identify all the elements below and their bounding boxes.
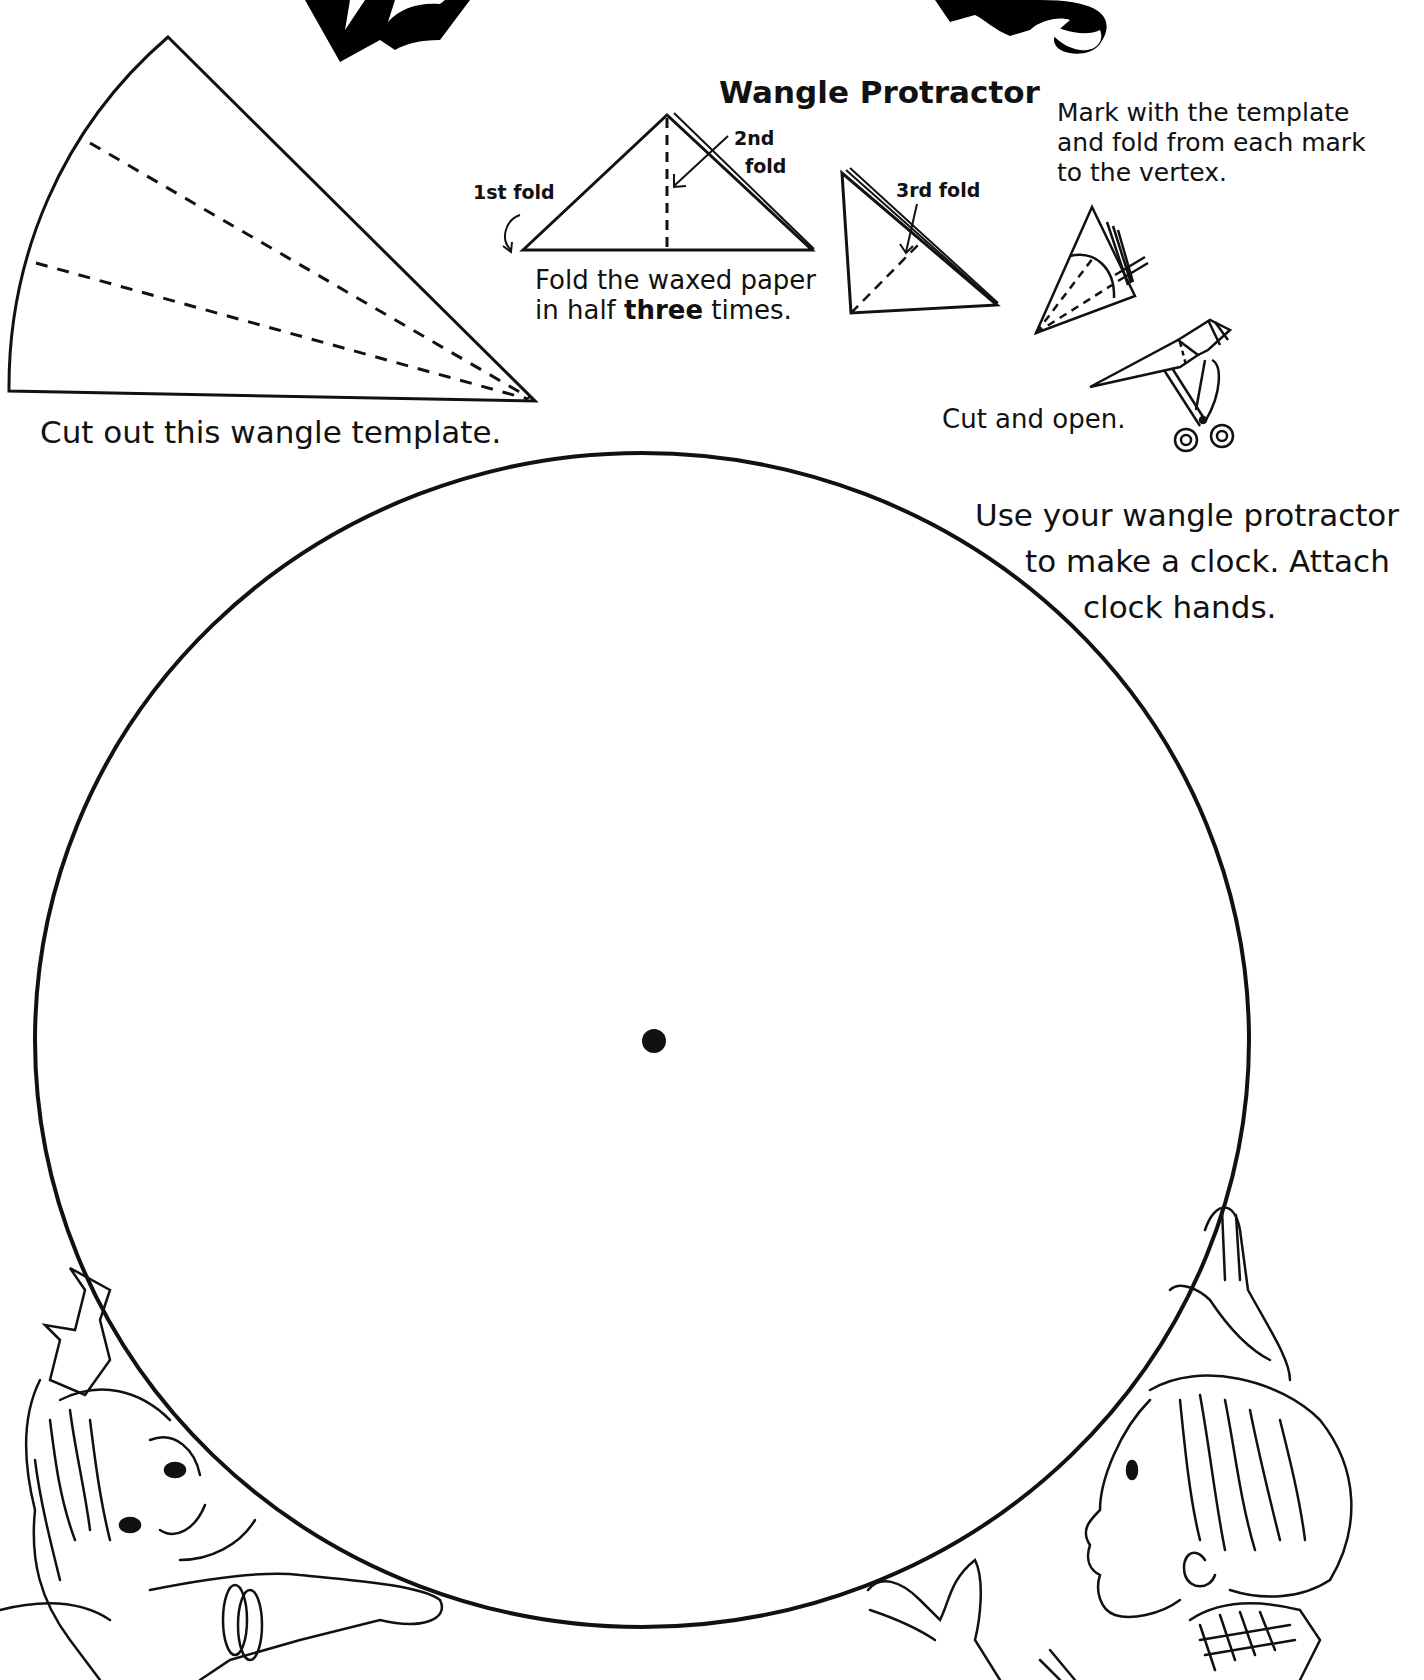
boy-illustration: [868, 1208, 1351, 1680]
step1-instruction-line1: Fold the waxed paper: [535, 265, 816, 295]
step3-instruction-line2: and fold from each mark: [1057, 128, 1366, 158]
girl-illustration: [0, 1268, 442, 1680]
fold-diagram-step3: [1036, 207, 1148, 333]
clock-instruction-line3: clock hands.: [1083, 584, 1424, 630]
title-lettering: [305, 0, 1107, 62]
clock-instruction-line1: Use your wangle protractor: [975, 492, 1424, 538]
step1-instruction: Fold the waxed paper in half three times…: [535, 265, 816, 325]
wangle-template-shape: [9, 37, 535, 401]
clock-instruction: Use your wangle protractor to make a clo…: [975, 492, 1424, 630]
step4-instruction: Cut and open.: [942, 404, 1125, 434]
step3-instruction-line3: to the vertex.: [1057, 158, 1366, 188]
step3-instruction: Mark with the template and fold from eac…: [1057, 98, 1366, 188]
fold2-label-line1: 2nd: [734, 127, 774, 149]
clock-center-dot: [642, 1029, 666, 1053]
scissors-icon: [1164, 360, 1233, 451]
fold3-label: 3rd fold: [896, 179, 980, 201]
step3-instruction-line1: Mark with the template: [1057, 98, 1366, 128]
emphasis-three: three: [624, 295, 703, 325]
step1-instruction-line2: in half three times.: [535, 295, 816, 325]
protractor-heading: Wangle Protractor: [719, 74, 1040, 110]
fold1-label: 1st fold: [473, 181, 555, 203]
clock-instruction-line2: to make a clock. Attach: [1025, 538, 1424, 584]
fold2-label-line2: fold: [745, 155, 786, 177]
template-caption: Cut out this wangle template.: [40, 414, 501, 450]
worksheet-artwork: [0, 0, 1424, 1680]
fold-diagram-step4: [1090, 320, 1230, 387]
